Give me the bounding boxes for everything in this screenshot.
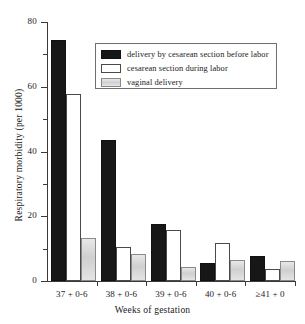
bar-4-series-1 bbox=[200, 263, 215, 281]
bar-5-series-1 bbox=[250, 256, 265, 281]
legend-item: cesarean section during labor bbox=[101, 62, 271, 75]
solid-black-swatch bbox=[101, 50, 121, 59]
y-tick-label: 0 bbox=[13, 276, 37, 285]
x-tick bbox=[146, 281, 147, 286]
x-category-label: ≥41 + 0 bbox=[245, 289, 295, 299]
outlined-white-swatch bbox=[101, 64, 121, 73]
x-category-label: 39 + 0-6 bbox=[146, 289, 196, 299]
y-tick-label: 80 bbox=[13, 17, 37, 26]
bar-2-series-2 bbox=[116, 247, 131, 281]
bar-3-series-1 bbox=[151, 224, 166, 281]
bar-5-series-2 bbox=[265, 269, 280, 281]
x-axis-title: Weeks of gestation bbox=[0, 305, 305, 315]
x-tick bbox=[97, 281, 98, 286]
legend-item-label: delivery by cesarean section before labo… bbox=[127, 50, 269, 59]
x-category-label: 37 + 0-6 bbox=[47, 289, 97, 299]
x-tick bbox=[245, 281, 246, 286]
respiratory-morbidity-bar-chart: 020406080 Respiratory morbidity (per 100… bbox=[0, 0, 305, 324]
x-category-label: 38 + 0-6 bbox=[97, 289, 147, 299]
y-axis-title: Respiratory morbidity (per 1000) bbox=[14, 40, 24, 270]
bar-5-series-3 bbox=[280, 261, 295, 281]
y-tick-major bbox=[41, 281, 47, 282]
bar-3-series-2 bbox=[166, 230, 181, 281]
x-category-label: 40 + 0-6 bbox=[196, 289, 246, 299]
legend-item: vaginal delivery bbox=[101, 76, 271, 89]
legend-item: delivery by cesarean section before labo… bbox=[101, 48, 271, 61]
bar-2-series-3 bbox=[131, 254, 146, 281]
bar-4-series-2 bbox=[215, 243, 230, 281]
bar-4-series-3 bbox=[230, 260, 245, 281]
bar-1-series-2 bbox=[66, 94, 81, 281]
legend-item-label: cesarean section during labor bbox=[127, 64, 228, 73]
legend-item-label: vaginal delivery bbox=[127, 78, 183, 87]
x-tick bbox=[295, 281, 296, 286]
light-gray-swatch bbox=[101, 78, 121, 87]
bar-2-series-1 bbox=[101, 140, 116, 281]
bar-1-series-1 bbox=[51, 40, 66, 281]
x-tick bbox=[196, 281, 197, 286]
bar-1-series-3 bbox=[81, 238, 96, 281]
chart-legend: delivery by cesarean section before labo… bbox=[95, 43, 277, 89]
bar-3-series-3 bbox=[181, 267, 196, 281]
x-axis-line bbox=[47, 281, 295, 282]
